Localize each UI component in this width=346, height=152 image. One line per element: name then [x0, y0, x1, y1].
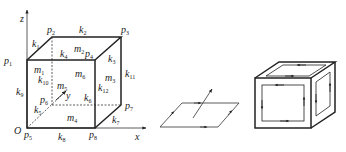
label-k7: k7: [112, 114, 119, 126]
label-p8: p8: [88, 129, 97, 141]
oriented-cube-figure: [255, 62, 335, 128]
label-k8: k8: [58, 131, 65, 143]
label-k3: k3: [108, 53, 115, 65]
label-m5: m5: [57, 80, 67, 92]
label-k1: k1: [32, 38, 39, 50]
label-k6: k6: [84, 92, 91, 104]
label-m6: m6: [75, 68, 85, 80]
label-k5: k5: [34, 104, 41, 116]
diagram-canvas: z x y O p1 p2 p3 p4 p5 p6 p7 p8 k1 k2 k3…: [0, 0, 346, 152]
label-m2: m2: [74, 43, 84, 55]
label-k11: k11: [125, 68, 135, 80]
label-k9: k9: [16, 86, 23, 98]
label-k12: k12: [98, 82, 108, 94]
label-k2: k2: [79, 24, 86, 36]
label-p1: p1: [3, 55, 12, 67]
label-p3: p3: [120, 24, 129, 36]
y-axis-arrow: [56, 91, 66, 100]
label-p6: p6: [39, 94, 48, 106]
oriented-parallelogram-figure: [160, 89, 239, 127]
label-p2: p2: [46, 24, 55, 36]
label-k4: k4: [60, 48, 67, 60]
label-p7: p7: [124, 100, 133, 112]
axis-label-x: x: [134, 131, 140, 142]
origin-label: O: [14, 125, 21, 136]
edge-labels: k1 k2 k3 k4 k5 k6 k7 k8 k9 k10 k11 k12: [16, 24, 135, 143]
normal-arrow: [193, 89, 212, 118]
labeled-cube-figure: z x y O p1 p2 p3 p4 p5 p6 p7 p8 k1 k2 k3…: [3, 10, 146, 143]
label-m3: m3: [105, 72, 115, 84]
label-p4: p4: [84, 48, 93, 60]
label-m4: m4: [67, 112, 77, 124]
axis-label-z: z: [19, 13, 24, 24]
label-p5: p5: [23, 129, 32, 141]
label-m1: m1: [34, 64, 44, 76]
